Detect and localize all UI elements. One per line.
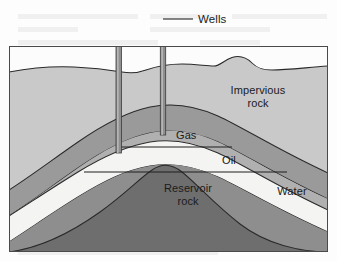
cross-section-body bbox=[9, 19, 328, 252]
gas-label: Gas bbox=[176, 129, 197, 141]
oil-label: Oil bbox=[222, 154, 236, 166]
left-well-pipe bbox=[116, 31, 121, 153]
left-well-pipe-highlight bbox=[117, 31, 119, 153]
reservoir-rock-label-line1: Reservoir bbox=[164, 182, 212, 194]
wells-label: Wells bbox=[198, 13, 227, 25]
petroleum-trap-figure: Wells Impervious rock Gas Oil Reservoir … bbox=[0, 0, 337, 261]
impervious-rock-label-line2: rock bbox=[247, 97, 269, 109]
impervious-rock-label-line1: Impervious bbox=[231, 84, 286, 96]
reservoir-rock-label-line2: rock bbox=[177, 195, 199, 207]
geology-cross-section-diagram: Wells Impervious rock Gas Oil Reservoir … bbox=[0, 0, 337, 261]
water-label: Water bbox=[277, 185, 307, 197]
